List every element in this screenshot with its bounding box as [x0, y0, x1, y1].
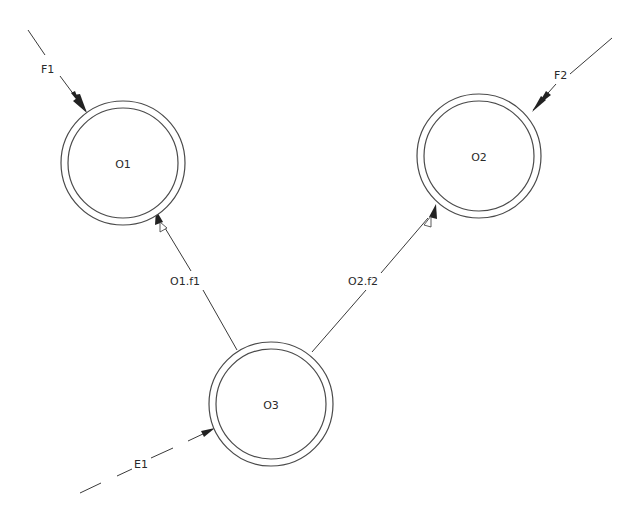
node-o2[interactable]: O2 — [417, 94, 541, 218]
edge-o2-f2-line-lower — [312, 290, 366, 352]
node-o3[interactable]: O3 — [209, 342, 333, 466]
edge-o1-f1-line-upper — [165, 228, 191, 271]
edge-e1-arrowhead-icon — [201, 428, 215, 437]
edge-e1-dash-1 — [80, 483, 101, 493]
edge-o2-f2-label: O2.f2 — [348, 275, 378, 288]
diagram-canvas: F1 F2 O1.f1 O2.f2 E1 O1 — [0, 0, 637, 518]
edge-o1-f1-label: O1.f1 — [170, 275, 200, 288]
edge-f2-line-upper — [570, 38, 612, 74]
edge-o2-f2[interactable]: O2.f2 — [312, 204, 437, 352]
edge-o1-f1-line-lower — [203, 290, 237, 350]
edge-e1-dash-4 — [188, 433, 205, 441]
edge-e1[interactable]: E1 — [80, 428, 215, 493]
edge-e1-label: E1 — [134, 458, 148, 471]
node-o1-label: O1 — [115, 158, 131, 171]
edge-f1-label: F1 — [41, 63, 54, 76]
edge-f2-label: F2 — [554, 69, 567, 82]
edge-e1-dash-2 — [117, 469, 132, 476]
node-o1[interactable]: O1 — [61, 101, 185, 225]
node-o2-label: O2 — [471, 151, 487, 164]
edge-o2-f2-line-upper — [381, 218, 428, 273]
edge-o1-f1[interactable]: O1.f1 — [155, 210, 237, 350]
edge-f2[interactable]: F2 — [532, 38, 612, 112]
edge-f1[interactable]: F1 — [28, 30, 87, 113]
edge-e1-dash-3 — [151, 448, 173, 458]
edge-f1-line-upper — [28, 30, 45, 55]
node-o3-label: O3 — [263, 399, 279, 412]
